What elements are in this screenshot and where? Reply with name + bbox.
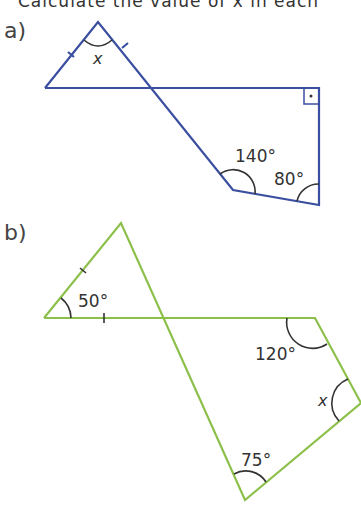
angle-label-80: 80° — [274, 169, 304, 189]
angle-arc-50 — [61, 298, 71, 318]
angle-arc-x — [84, 40, 112, 46]
angle-label-75: 75° — [241, 450, 271, 470]
right-angle-dot — [310, 95, 313, 98]
angle-label-x-b: x — [317, 391, 328, 410]
angle-label-50: 50° — [78, 291, 108, 311]
angle-label-120: 120° — [255, 344, 296, 364]
figure-b — [44, 223, 361, 500]
angle-arcs-b — [61, 298, 348, 482]
angle-arc-75 — [234, 471, 266, 482]
tick-mark — [122, 43, 128, 48]
geometry-diagram: x 140° 80° 50° 120° x 75° — [0, 0, 361, 511]
angle-label-x-a: x — [92, 49, 103, 68]
angle-label-140: 140° — [235, 146, 276, 166]
figure-b-outline — [44, 223, 361, 500]
